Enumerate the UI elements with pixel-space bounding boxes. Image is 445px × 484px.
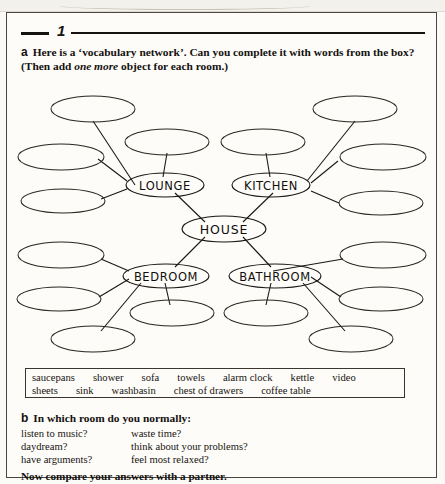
question-column-left: listen to music? daydream? have argument… — [21, 428, 131, 466]
word-item[interactable]: coffee table — [261, 385, 311, 398]
blank-ellipse[interactable] — [130, 300, 214, 326]
worksheet-page: 1 aHere is a ‘vocabulary network’. Can y… — [0, 0, 445, 484]
edge-kitchen-b2 — [307, 121, 355, 181]
question-column-right: waste time? think about your problems? f… — [131, 428, 361, 466]
question-item: feel most relaxed? — [131, 454, 361, 467]
task-a-letter: a — [21, 45, 28, 59]
question-list: listen to music? daydream? have argument… — [21, 428, 421, 466]
task-a-emphasis: one more — [74, 60, 118, 72]
node-kitchen[interactable]: KITCHEN — [232, 173, 310, 197]
edge-bathroom-b2 — [311, 277, 341, 297]
word-box: saucepans shower sofa towels alarm clock… — [25, 368, 405, 398]
node-lounge[interactable]: LOUNGE — [126, 173, 204, 197]
word-item[interactable]: towels — [177, 372, 205, 385]
word-box-row-1: saucepans shower sofa towels alarm clock… — [32, 372, 398, 385]
blank-ellipse[interactable] — [51, 326, 135, 352]
blank-ellipse[interactable] — [340, 242, 426, 268]
word-item[interactable]: saucepans — [32, 372, 75, 385]
exercise-header: 1 — [21, 25, 425, 41]
network-room-nodes: LOUNGE KITCHEN BEDROOM BATHROOM — [123, 173, 321, 288]
blank-ellipse[interactable] — [51, 96, 135, 122]
edge-bedroom-b4 — [165, 283, 170, 305]
blank-ellipse[interactable] — [339, 191, 423, 215]
blank-ellipse[interactable] — [21, 189, 105, 213]
question-item: think about your problems? — [131, 441, 361, 454]
node-house[interactable]: HOUSE — [182, 216, 266, 242]
closing-instruction: Now compare your answers with a partner. — [21, 470, 227, 482]
vocabulary-network-diagram: LOUNGE KITCHEN BEDROOM BATHROOM — [15, 81, 429, 363]
edge-kitchen-b4 — [311, 191, 339, 203]
task-b-letter: b — [21, 411, 28, 425]
word-item[interactable]: kettle — [291, 372, 315, 385]
task-b: bIn which room do you normally: — [21, 411, 421, 425]
header-rule-left — [21, 32, 49, 35]
word-item[interactable]: sink — [76, 385, 94, 398]
node-bathroom[interactable]: BATHROOM — [229, 264, 321, 288]
word-item[interactable]: shower — [93, 372, 124, 385]
word-item[interactable]: sheets — [32, 385, 58, 398]
node-lounge-label: LOUNGE — [139, 179, 191, 193]
node-bedroom[interactable]: BEDROOM — [123, 264, 209, 288]
task-a-text-part2: object for each room.) — [118, 60, 228, 72]
question-item: waste time? — [131, 428, 361, 441]
question-item: have arguments? — [21, 454, 131, 467]
question-item: daydream? — [21, 441, 131, 454]
blank-ellipse[interactable] — [309, 326, 393, 352]
edge-lounge-b1 — [93, 121, 135, 185]
word-item[interactable]: alarm clock — [223, 372, 273, 385]
word-item[interactable]: chest of drawers — [174, 385, 243, 398]
edge-bathroom-b3 — [303, 283, 345, 331]
edge-bathroom-b4 — [266, 283, 271, 305]
edge-bedroom-b1 — [101, 259, 129, 271]
task-a: aHere is a ‘vocabulary network’. Can you… — [21, 45, 429, 73]
worksheet-frame: 1 aHere is a ‘vocabulary network’. Can y… — [6, 12, 437, 478]
blank-ellipse[interactable] — [125, 129, 209, 155]
question-item: listen to music? — [21, 428, 131, 441]
edge-house-bathroom — [243, 237, 271, 267]
node-bathroom-label: BATHROOM — [239, 270, 310, 284]
edge-bedroom-b2 — [99, 279, 129, 297]
blank-ellipse[interactable] — [313, 96, 397, 122]
blank-ellipse[interactable] — [339, 287, 423, 311]
node-house-label: HOUSE — [200, 222, 249, 237]
node-kitchen-label: KITCHEN — [244, 179, 298, 193]
node-bedroom-label: BEDROOM — [134, 270, 198, 284]
blank-ellipse[interactable] — [17, 287, 101, 311]
edge-lounge-b2 — [98, 159, 127, 181]
exercise-number: 1 — [57, 22, 65, 39]
word-item[interactable]: washbasin — [112, 385, 156, 398]
edge-lounge-b3 — [101, 189, 127, 199]
edge-kitchen-b3 — [311, 161, 338, 183]
blank-ellipse[interactable] — [18, 242, 104, 268]
word-item[interactable]: video — [332, 372, 356, 385]
scan-edge-artifact — [0, 0, 445, 12]
blank-ellipse[interactable] — [221, 129, 305, 155]
blank-ellipse[interactable] — [18, 144, 104, 170]
header-rule-right — [71, 32, 425, 34]
edge-house-bedroom — [175, 237, 205, 267]
task-b-text: In which room do you normally: — [33, 412, 191, 424]
word-item[interactable]: sofa — [142, 372, 160, 385]
word-box-row-2: sheets sink washbasin chest of drawers c… — [32, 385, 398, 398]
blank-ellipse[interactable] — [340, 144, 426, 170]
